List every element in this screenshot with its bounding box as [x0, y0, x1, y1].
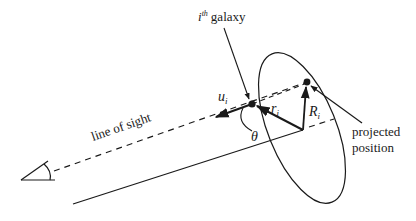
velocity-vector-u — [216, 104, 252, 117]
r-label: ri — [271, 101, 279, 118]
galaxy-point — [248, 100, 255, 107]
galaxy-pointer-line — [224, 28, 249, 99]
projected-radius-R — [303, 87, 306, 130]
angle-theta-arc — [241, 108, 252, 131]
sky-plane-ellipse — [241, 41, 364, 215]
theta-label: θ — [251, 129, 258, 144]
line-of-sight-label: line of sight — [89, 109, 153, 144]
R-label: Ri — [308, 104, 321, 121]
projected-position-label-line1: projected — [352, 124, 401, 139]
galaxy-label: ithgalaxy — [198, 9, 246, 24]
radius-vector-r — [257, 106, 303, 130]
projected-position-point — [304, 79, 311, 86]
galaxy-to-projection-dashed — [252, 83, 307, 104]
projected-position-label-line2: position — [352, 140, 394, 155]
center-offset-dashed — [309, 119, 334, 127]
line-of-sight-dashed — [54, 82, 307, 171]
cluster-center-axis — [73, 130, 303, 204]
galaxy-projection-diagram: ithgalaxy ui ri Ri θ line of sight proje… — [0, 0, 416, 221]
u-label: ui — [218, 89, 228, 106]
observer-eye-icon — [21, 161, 55, 180]
